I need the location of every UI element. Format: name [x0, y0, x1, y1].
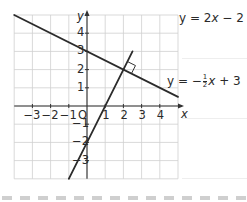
- x-tick-label: 1: [102, 110, 109, 122]
- dash-segment: [110, 196, 120, 200]
- dash-segment: [128, 196, 138, 200]
- equation-label-line1: y = 2x − 2: [179, 12, 244, 24]
- coordinate-graph: [0, 0, 247, 202]
- origin-label: O: [78, 110, 87, 122]
- dash-segment: [236, 196, 246, 200]
- y-tick-label: 3: [77, 45, 84, 57]
- dash-segment: [164, 196, 174, 200]
- y-tick-label: 1: [77, 82, 84, 94]
- axes: [14, 10, 184, 179]
- dashed-separator: [0, 196, 247, 202]
- y-tick-label: 2: [77, 64, 84, 76]
- y-tick-label: 4: [77, 27, 84, 39]
- x-tick-label: 3: [139, 110, 146, 122]
- x-tick-label: −2: [42, 110, 59, 122]
- dash-segment: [38, 196, 48, 200]
- dash-segment: [2, 196, 12, 200]
- paper-rule-line: [182, 178, 247, 179]
- y-axis-label: y: [77, 11, 84, 23]
- dash-segment: [182, 196, 192, 200]
- dash-segment: [200, 196, 210, 200]
- dash-segment: [92, 196, 102, 200]
- y-tick-label: −2: [72, 136, 89, 148]
- dash-segment: [74, 196, 84, 200]
- y-tick-label: −3: [72, 155, 89, 167]
- line-y-neg-half-x-plus-3: [14, 15, 178, 97]
- plotted-lines: [14, 15, 178, 179]
- paper-rule-line: [182, 58, 247, 59]
- grid-lines: [14, 15, 178, 179]
- x-tick-label: 2: [120, 110, 127, 122]
- dash-segment: [20, 196, 30, 200]
- paper-rule-line: [182, 118, 247, 119]
- x-tick-label: 4: [157, 110, 164, 122]
- equation-label-line2: y = −12x + 3: [167, 74, 241, 89]
- fraction-one-half: 12: [203, 74, 207, 89]
- dash-segment: [56, 196, 66, 200]
- dash-segment: [218, 196, 228, 200]
- dash-segment: [146, 196, 156, 200]
- x-tick-label: −3: [23, 110, 40, 122]
